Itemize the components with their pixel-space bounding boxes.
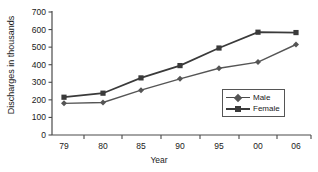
x-axis-tick-label: 95 [214,141,224,151]
line-chart: Discharges in thousands Year 01002003004… [0,0,318,172]
y-axis-tick-label: 300 [32,77,46,87]
data-point-male [293,42,299,48]
data-point-female [61,95,66,100]
chart-legend: Male Female [222,89,285,117]
data-point-male [61,100,67,106]
male-series-key [226,93,250,102]
y-axis-tick-label: 500 [32,42,46,52]
data-point-male [255,59,261,65]
x-axis-tick-label: 06 [291,141,301,151]
x-axis-tick-label: 90 [175,141,185,151]
legend-label-female: Female [253,103,280,114]
data-point-female [177,63,182,68]
y-axis-tick-label: 0 [41,130,46,140]
data-point-male [138,87,144,93]
y-axis-tick-label: 100 [32,112,46,122]
y-axis-tick-label: 700 [32,7,46,17]
plot-area: 010020030040050060070079808590950006 [0,0,318,172]
y-axis-tick-label: 400 [32,60,46,70]
y-axis-tick-label: 200 [32,95,46,105]
data-point-male [216,65,222,71]
legend-label-male: Male [253,92,270,103]
female-series-key [226,104,250,113]
data-point-female [255,30,260,35]
x-axis-tick-label: 79 [59,141,69,151]
data-point-male [177,76,183,82]
data-point-female [138,75,143,80]
x-axis-tick-label: 00 [253,141,263,151]
y-axis-tick-label: 600 [32,25,46,35]
data-point-female [100,91,105,96]
x-axis-tick-label: 80 [98,141,108,151]
data-point-male [100,99,106,105]
data-point-female [293,30,298,35]
legend-item-female: Female [226,103,280,114]
legend-item-male: Male [226,92,280,103]
data-point-female [216,45,221,50]
x-axis-tick-label: 85 [136,141,146,151]
